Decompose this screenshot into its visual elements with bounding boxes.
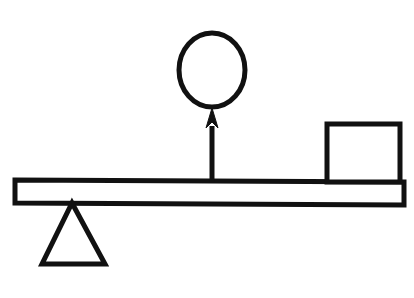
load-block-square [327,124,400,182]
force-arrow-head [206,108,218,128]
lever-diagram-svg [0,0,414,298]
diagram-canvas [0,0,414,298]
fulcrum-triangle [42,203,105,264]
circle-outline [179,33,245,107]
